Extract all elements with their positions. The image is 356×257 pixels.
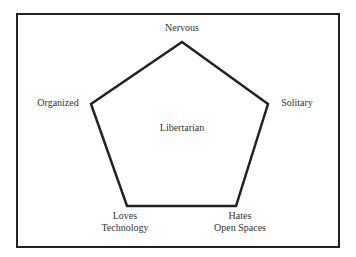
vertex-label-top: Nervous — [152, 22, 212, 34]
vertex-label-bottom-left-line2: Technology — [90, 222, 160, 234]
center-label: Libertarian — [142, 122, 222, 134]
vertex-label-left: Organized — [30, 97, 86, 109]
vertex-label-bottom-left-line1: Loves — [90, 210, 160, 222]
vertex-label-bottom-left: Loves Technology — [90, 210, 160, 234]
vertex-label-bottom-right: Hates Open Spaces — [200, 210, 280, 234]
vertex-label-bottom-right-line2: Open Spaces — [200, 222, 280, 234]
vertex-label-right: Solitary — [272, 97, 322, 109]
vertex-label-bottom-right-line1: Hates — [200, 210, 280, 222]
